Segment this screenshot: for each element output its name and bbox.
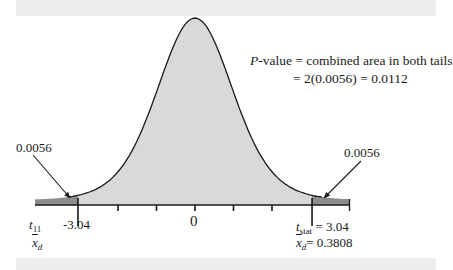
left-tail-area-label: 0.0056: [16, 141, 52, 154]
t-stat-label: tstat = 3.04: [296, 220, 349, 236]
tstat-value: = 3.04: [312, 219, 349, 234]
right-tail-area-label: 0.0056: [344, 146, 380, 159]
xbar-value: = 0.3808: [306, 235, 352, 250]
xbar-value-label: xd= 0.3808: [296, 236, 353, 252]
xbar-subscript: d: [38, 242, 43, 252]
df-subscript: 11: [33, 224, 42, 234]
t-df-label: t11: [29, 218, 41, 234]
left-tail-arrow: [33, 155, 70, 198]
xbar-d-label: xd: [32, 236, 42, 252]
p-value-text: -value = combined area in both tails: [258, 53, 452, 68]
p-symbol: P: [250, 53, 258, 68]
center-tick-label: 0: [190, 214, 198, 229]
left-critical-label: -3.04: [63, 218, 90, 231]
right-tail-arrow: [324, 161, 361, 198]
p-value-annotation-line1: P-value = combined area in both tails: [250, 54, 453, 68]
p-value-annotation-line2: = 2(0.0056) = 0.0112: [293, 72, 408, 86]
